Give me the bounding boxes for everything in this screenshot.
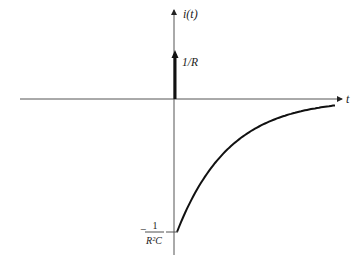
min-value-denominator: R²C (145, 235, 162, 246)
decay-curve (177, 105, 335, 232)
min-value-label: − 1 R²C (140, 220, 164, 246)
x-axis-label: t (346, 92, 350, 106)
min-value-numerator: 1 (153, 220, 158, 231)
y-axis-label: i(t) (183, 7, 198, 21)
min-value-sign: − (140, 223, 146, 235)
impulse-arrowhead (172, 50, 179, 58)
impulse-label: 1/R (182, 56, 198, 68)
impulse-response-diagram: i(t) t 1/R − 1 R²C (0, 0, 354, 267)
